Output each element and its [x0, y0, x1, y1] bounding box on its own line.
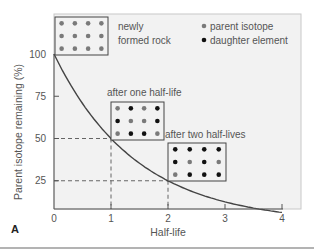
parent-dot [99, 21, 104, 26]
daughter-dot [142, 131, 147, 136]
parent-dot [59, 46, 64, 51]
parent-dot [86, 21, 91, 26]
daughter-dot [202, 160, 207, 165]
parent-dot [99, 34, 104, 39]
x-axis-label: Half-life [150, 226, 186, 238]
daughter-dot [129, 131, 134, 136]
daughter-dot [187, 172, 192, 177]
legend-dot [202, 38, 207, 43]
parent-dot [73, 21, 78, 26]
daughter-dot [202, 172, 207, 177]
parent-dot [73, 46, 78, 51]
parent-dot [59, 34, 64, 39]
y-tick-label: 75 [35, 91, 47, 102]
parent-dot [216, 160, 221, 165]
x-tick-label: 4 [279, 213, 285, 224]
parent-dot [73, 34, 78, 39]
daughter-dot [202, 147, 207, 152]
annotation-newly: newly [118, 21, 144, 32]
y-tick-label: 100 [29, 49, 46, 60]
parent-dot [59, 21, 64, 26]
parent-dot [86, 46, 91, 51]
daughter-dot [155, 106, 160, 111]
daughter-dot [187, 147, 192, 152]
daughter-dot [173, 160, 178, 165]
parent-dot [155, 131, 160, 136]
daughter-dot [216, 147, 221, 152]
parent-dot [173, 172, 178, 177]
legend-label: daughter element [210, 35, 288, 46]
y-tick-label: 25 [35, 175, 47, 186]
x-tick-label: 2 [165, 213, 171, 224]
daughter-dot [129, 106, 134, 111]
x-tick-label: 0 [51, 213, 57, 224]
x-tick-label: 1 [108, 213, 114, 224]
annotation-one: after one half-life [107, 87, 182, 98]
parent-dot [142, 119, 147, 124]
parent-dot [86, 34, 91, 39]
annotation-newly: formed rock [118, 35, 172, 46]
legend-dot [202, 24, 207, 29]
parent-dot [115, 106, 120, 111]
daughter-dot [115, 119, 120, 124]
half-life-chart: 01234255075100 newlyformed rockafter one… [0, 0, 314, 251]
parent-dot [129, 119, 134, 124]
y-tick-label: 50 [35, 133, 47, 144]
daughter-dot [173, 147, 178, 152]
daughter-dot [216, 172, 221, 177]
annotation-two: after two half-lives [165, 129, 246, 140]
parent-dot [115, 131, 120, 136]
parent-dot [99, 46, 104, 51]
figure-label: A [11, 223, 19, 235]
parent-dot [187, 160, 192, 165]
x-tick-label: 3 [222, 213, 228, 224]
y-axis-label: Parent isotope remaining (%) [12, 64, 24, 200]
daughter-dot [155, 119, 160, 124]
parent-dot [142, 106, 147, 111]
legend-label: parent isotope [210, 21, 274, 32]
